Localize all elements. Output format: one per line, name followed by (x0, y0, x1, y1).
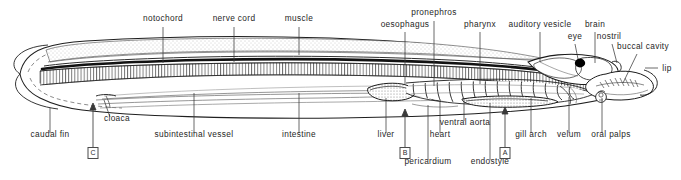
label-eye: eye (568, 32, 582, 41)
section-marker-b: B (400, 147, 411, 159)
label-oesophagus: oesophagus (381, 20, 430, 29)
label-pericardium: pericardium (404, 157, 451, 166)
label-liver: liver (378, 130, 395, 139)
label-pronephros: pronephros (411, 8, 456, 17)
section-marker-a: A (500, 147, 511, 159)
label-lip: lip (662, 64, 671, 73)
label-ventral-aorta: ventral aorta (440, 118, 491, 127)
label-brain: brain (585, 20, 605, 29)
label-muscle: muscle (285, 14, 313, 23)
anatomy-figure: notochord nerve cord muscle oesophagus p… (0, 0, 681, 180)
label-gill-arch: gill arch (515, 130, 547, 139)
section-marker-c: C (88, 147, 99, 159)
label-nostril: nostril (597, 32, 622, 41)
label-heart: heart (430, 130, 451, 139)
label-auditory-vesicle: auditory vesicle (509, 20, 572, 29)
label-cloaca: cloaca (104, 114, 130, 123)
label-caudal-fin: caudal fin (30, 130, 69, 139)
lancelet-anatomy-illustration (0, 0, 681, 180)
label-intestine: intestine (282, 130, 316, 139)
label-velum: velum (557, 130, 581, 139)
label-oral-palps: oral palps (591, 130, 630, 139)
label-buccal-cavity: buccal cavity (617, 42, 669, 51)
label-notochord: notochord (143, 14, 183, 23)
label-pharynx: pharynx (464, 20, 496, 29)
label-nerve-cord: nerve cord (213, 14, 256, 23)
label-subintestinal-vessel: subintestinal vessel (155, 130, 234, 139)
